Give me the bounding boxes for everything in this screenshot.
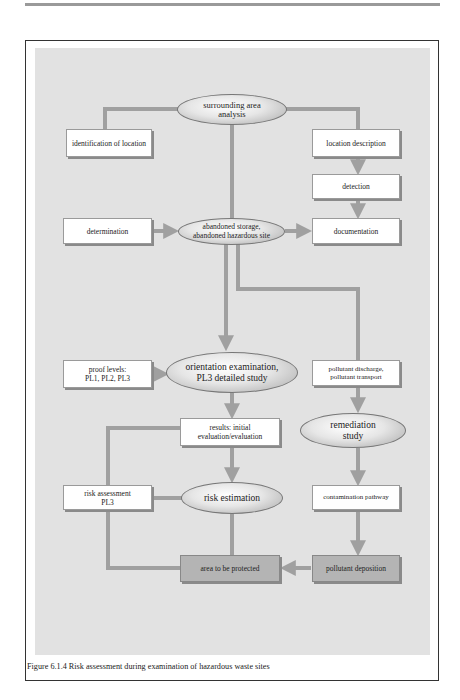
node-location-description: location description [312, 129, 400, 157]
node-label: orientation examination, PL3 detailed st… [186, 362, 279, 383]
node-pollutant-deposition: pollutant deposition [312, 555, 400, 582]
node-label: contamination pathway [323, 493, 389, 502]
node-determination: determination [63, 218, 152, 244]
node-label: risk estimation [204, 493, 260, 503]
node-label: determination [87, 227, 129, 236]
node-label: documentation [334, 227, 379, 236]
node-surrounding-area-analysis: surrounding area analysis [177, 94, 287, 125]
node-area-to-be-protected: area to be protected [180, 555, 280, 582]
node-proof-levels: proof levels: PL1, PL2, PL3 [63, 360, 152, 388]
connector-surrounding-identification [105, 109, 180, 129]
node-documentation: documentation [312, 218, 400, 244]
node-identification-of-location: identification of location [66, 129, 152, 157]
node-label: identification of location [72, 139, 146, 148]
connector-abandoned-discharge [238, 244, 358, 360]
node-abandoned-site: abandoned storage, abandoned hazardous s… [178, 218, 285, 245]
node-orientation-examination: orientation examination, PL3 detailed st… [166, 352, 298, 393]
node-pollutant-discharge: pollutant discharge, pollutant transport [312, 360, 400, 386]
node-detection: detection [312, 174, 400, 199]
node-label: pollutant discharge, pollutant transport [328, 365, 383, 382]
node-label: detection [342, 182, 370, 191]
node-label: area to be protected [201, 564, 260, 573]
node-label: risk assessment PL3 [84, 489, 130, 507]
node-label: location description [326, 139, 385, 148]
node-risk-assessment: risk assessment PL3 [63, 485, 152, 510]
node-contamination-pathway: contamination pathway [312, 485, 400, 510]
node-remediation-study: remediation study [300, 413, 406, 448]
node-results-evaluation: results: initial evaluation/evaluation [180, 418, 280, 446]
node-label: remediation study [330, 420, 375, 441]
connector-surrounding-location [286, 109, 358, 129]
node-label: results: initial evaluation/evaluation [198, 423, 263, 441]
figure-caption: Figure 6.1.4 Risk assessment during exam… [27, 662, 270, 671]
node-risk-estimation: risk estimation [181, 482, 283, 514]
node-label: abandoned storage, abandoned hazardous s… [193, 223, 270, 240]
node-label: surrounding area analysis [203, 101, 260, 119]
node-label: proof levels: PL1, PL2, PL3 [85, 365, 130, 383]
node-label: pollutant deposition [326, 564, 386, 573]
